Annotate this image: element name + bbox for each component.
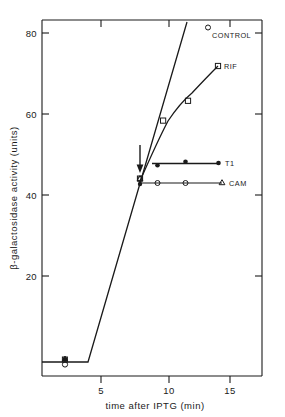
y-axis-title: β-galactosidase activity (units)	[8, 126, 19, 269]
series-baseline	[42, 22, 187, 362]
x-tick-label-15: 15	[224, 385, 235, 396]
right-axis-ticks	[255, 33, 262, 276]
x-axis-ticks	[101, 376, 230, 383]
series-control	[206, 25, 211, 30]
top-axis-ticks	[101, 20, 230, 27]
series-label-t1: T1	[225, 159, 235, 168]
chart-figure: 80 60 40 20 5 10 15 time after IPTG (min…	[0, 0, 285, 417]
x-tick-label-10: 10	[163, 385, 174, 396]
y-tick-label-60: 60	[26, 109, 37, 120]
y-tick-label-80: 80	[26, 28, 37, 39]
y-tick-label-40: 40	[26, 190, 37, 201]
x-axis-title: time after IPTG (min)	[105, 400, 204, 411]
series-label-cam: CAM	[229, 179, 247, 188]
series-label-control: CONTROL	[212, 31, 251, 40]
series-label-rif: RIF	[224, 62, 237, 71]
series-cam	[137, 176, 225, 187]
x-tick-label-5: 5	[98, 385, 104, 396]
y-tick-label-20: 20	[26, 271, 37, 282]
baseline-marker-cluster	[62, 356, 67, 367]
series-t1	[152, 160, 221, 168]
induction-arrow	[137, 145, 144, 173]
beta-galactosidase-activity-plot: 80 60 40 20 5 10 15 time after IPTG (min…	[0, 0, 285, 417]
y-axis-ticks	[42, 33, 49, 276]
axis-frame	[42, 20, 262, 376]
